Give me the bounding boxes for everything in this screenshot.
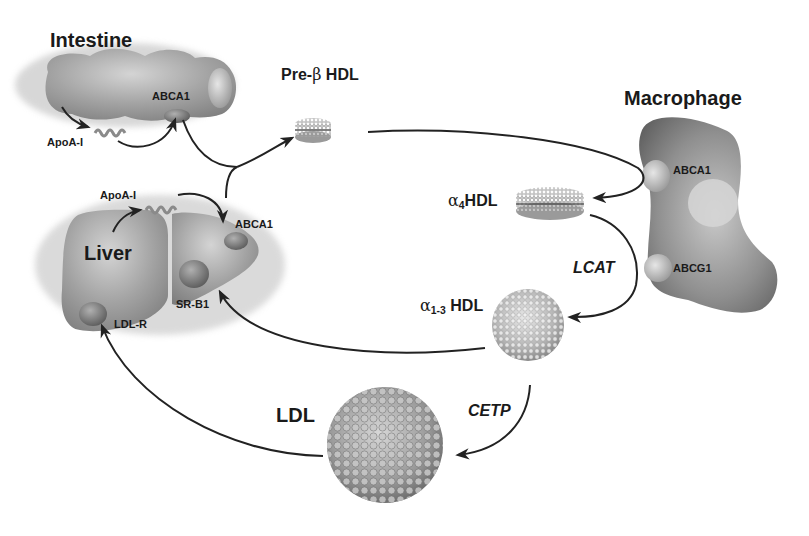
- arrow-junction-to-pre-beta-hdl: [237, 138, 292, 167]
- liver-abca1-label: ABCA1: [235, 219, 273, 230]
- liver-srb1-label: SR-B1: [176, 299, 209, 310]
- ldl-particle: [327, 387, 443, 503]
- liver-ldlr-label: LDL-R: [114, 319, 147, 330]
- arrow-ldl-to-ldlr: [102, 326, 323, 456]
- alpha13-hdl-label: α1-3 HDL: [420, 298, 483, 317]
- pre-beta-hdl-particle: [295, 118, 331, 143]
- intestine-abca1-label: ABCA1: [152, 91, 190, 102]
- lcat-enzyme-label: LCAT: [573, 260, 614, 276]
- macrophage-abcg1-label: ABCG1: [673, 263, 712, 274]
- alpha13-hdl-particle: [492, 289, 564, 361]
- apoa1-helix-intestine: [95, 130, 125, 136]
- intestine-apoa1-label: ApoA-I: [47, 137, 83, 148]
- liver-organ: [35, 195, 285, 335]
- alpha4-hdl-label: α4HDL: [448, 193, 497, 212]
- arrow-liver-to-junction: [226, 167, 237, 198]
- intestine-organ: [15, 43, 236, 127]
- macrophage-label: Macrophage: [624, 88, 742, 108]
- liver-label: Liver: [84, 243, 132, 263]
- macrophage-abca1-label: ABCA1: [673, 165, 711, 176]
- pre-beta-hdl-label: Pre-β HDL: [281, 67, 359, 83]
- arrow-cetp: [458, 385, 530, 455]
- arrow-intestine-abca1-to-junction: [183, 120, 237, 167]
- alpha4-hdl-particle: [516, 187, 584, 220]
- liver-apoa1-label: ApoA-I: [100, 190, 136, 201]
- ldl-label: LDL: [276, 405, 315, 425]
- macrophage-cell: [639, 117, 777, 312]
- arrow-pre-beta-to-alpha4: [368, 131, 644, 198]
- intestine-label: Intestine: [50, 30, 132, 50]
- cetp-enzyme-label: CETP: [468, 403, 511, 419]
